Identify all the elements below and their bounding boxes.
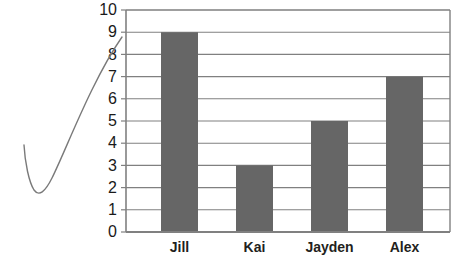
- y-axis-label-8: 8: [108, 46, 117, 63]
- y-axis-label-3: 3: [108, 157, 117, 174]
- y-axis-label-1: 1: [108, 201, 117, 218]
- x-axis-label-jill: Jill: [170, 239, 189, 255]
- x-axis-label-alex: Alex: [390, 239, 420, 255]
- bar-chart: 109876543210 JillKaiJaydenAlex: [0, 0, 469, 268]
- y-axis-label-0: 0: [108, 223, 117, 240]
- y-axis-label-4: 4: [108, 134, 117, 151]
- chart-canvas: 109876543210 JillKaiJaydenAlex: [0, 0, 469, 268]
- bar-alex: [386, 77, 423, 232]
- y-axis-label-5: 5: [108, 112, 117, 129]
- bar-jill: [161, 32, 198, 232]
- bar-kai: [236, 165, 273, 232]
- y-axis-label-9: 9: [108, 23, 117, 40]
- y-axis-label-7: 7: [108, 68, 117, 85]
- bar-jayden: [311, 121, 348, 232]
- y-axis-label-10: 10: [99, 1, 117, 18]
- y-axis-label-2: 2: [108, 179, 117, 196]
- x-axis-label-jayden: Jayden: [305, 239, 353, 255]
- x-axis-label-kai: Kai: [244, 239, 266, 255]
- y-axis-label-6: 6: [108, 90, 117, 107]
